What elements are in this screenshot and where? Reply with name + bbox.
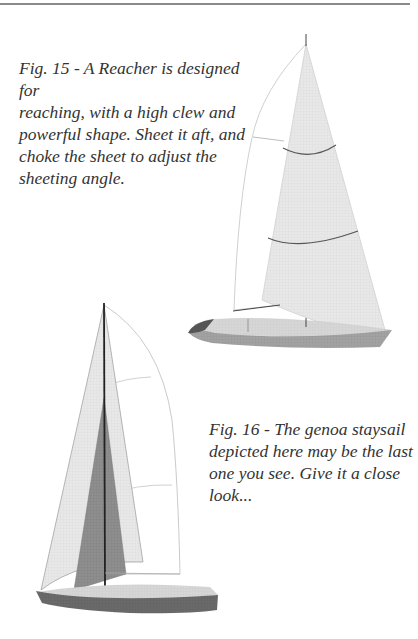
genoa-staysail-boat — [36, 303, 218, 613]
reacher-sail — [262, 44, 385, 330]
mainsail-batten — [253, 137, 284, 141]
boom — [233, 305, 280, 311]
reacher-boat — [188, 34, 392, 348]
mast — [104, 303, 105, 588]
